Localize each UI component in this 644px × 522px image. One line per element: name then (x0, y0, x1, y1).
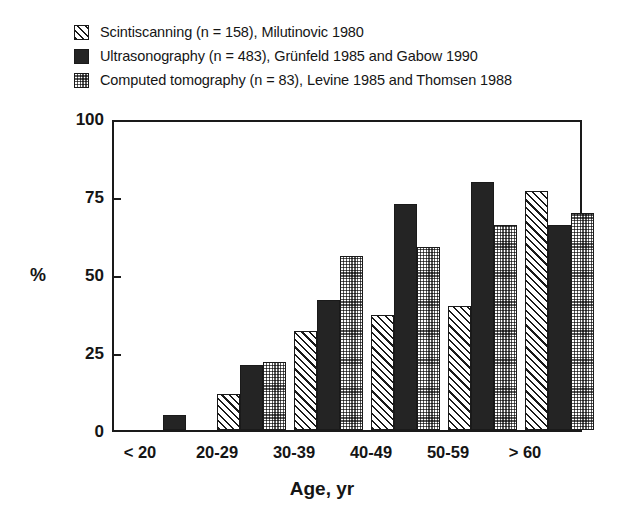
bar-group (371, 120, 440, 430)
x-axis-label: Age, yr (0, 478, 644, 500)
bar (317, 300, 340, 430)
y-tick-50: 50 (58, 266, 104, 286)
legend-label-ultrasonography: Ultrasonography (n = 483), Grünfeld 1985… (100, 48, 478, 64)
legend-item-scintiscanning: Scintiscanning (n = 158), Milutinovic 19… (74, 20, 634, 44)
bar (217, 394, 240, 430)
bar-group (140, 120, 209, 430)
bar (525, 191, 548, 430)
bar (471, 182, 494, 430)
bar (371, 315, 394, 430)
y-tick-75: 75 (58, 188, 104, 208)
chart-legend: Scintiscanning (n = 158), Milutinovic 19… (74, 20, 634, 92)
bar-group (525, 120, 594, 430)
legend-item-ultrasonography: Ultrasonography (n = 483), Grünfeld 1985… (74, 44, 634, 68)
bars-layer (114, 120, 580, 430)
bar (263, 362, 286, 430)
bar (340, 256, 363, 430)
legend-item-computed-tomography: Computed tomography (n = 83), Levine 198… (74, 68, 634, 92)
bar (240, 365, 263, 430)
bar (294, 331, 317, 430)
bar (448, 306, 471, 430)
bar-group (294, 120, 363, 430)
bar-group (217, 120, 286, 430)
bar (417, 247, 440, 430)
bar (571, 213, 594, 430)
bar (494, 225, 517, 430)
bar (548, 225, 571, 430)
x-tick-over-60: > 60 (480, 443, 570, 462)
y-tick-0: 0 (58, 422, 104, 442)
y-tick-25: 25 (58, 344, 104, 364)
legend-label-scintiscanning: Scintiscanning (n = 158), Milutinovic 19… (100, 24, 364, 40)
bar (163, 415, 186, 431)
bar-group (448, 120, 517, 430)
legend-label-computed-tomography: Computed tomography (n = 83), Levine 198… (100, 72, 512, 88)
y-tick-100: 100 (58, 110, 104, 130)
bar (394, 204, 417, 430)
